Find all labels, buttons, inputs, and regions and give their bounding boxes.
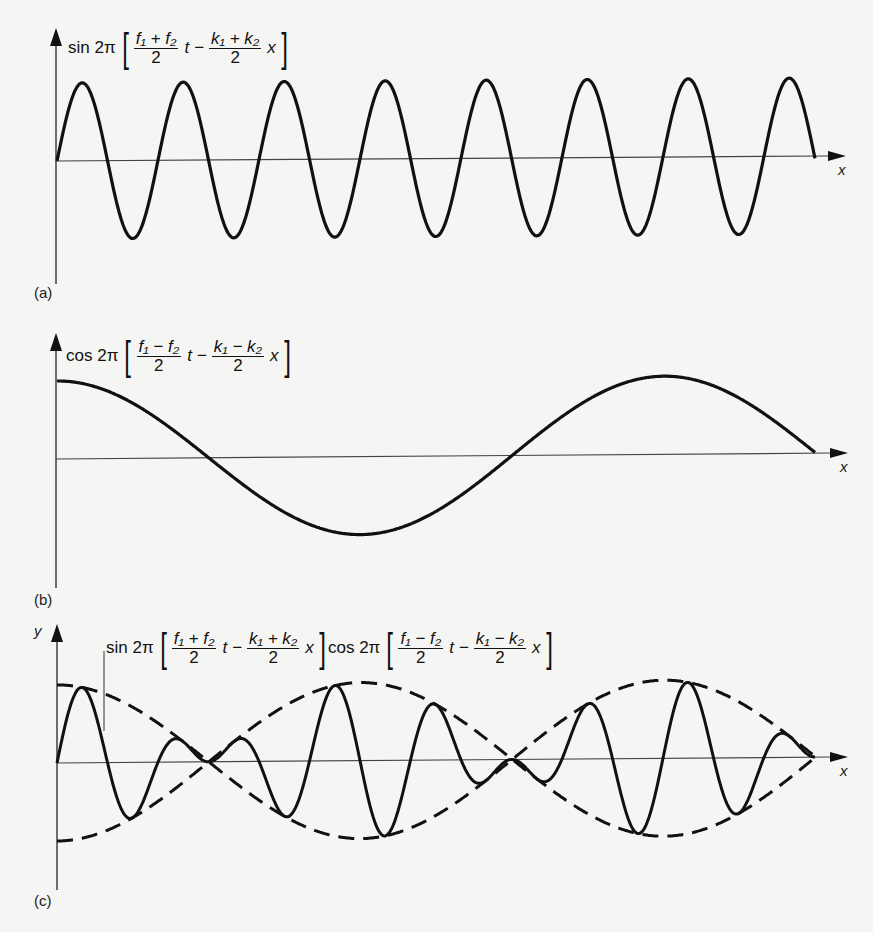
formula-open-bracket: [ <box>125 336 132 376</box>
panel-b-label: (b) <box>34 591 52 608</box>
panel-a-formula: sin 2π [ f₁ + f₂ 2 t − k₁ + k₂ 2 x ] <box>68 28 290 68</box>
panel-c-modulated-wave <box>57 682 815 836</box>
panel-c-label: (c) <box>34 892 52 909</box>
formula-close-bracket: ] <box>284 336 291 376</box>
diagram-canvas <box>0 0 873 932</box>
panel-a-y-arrow-icon <box>50 28 62 46</box>
panel-c-formula: sin 2π [ f₁ + f₂ 2 t − k₁ + k₂ 2 x ] cos… <box>106 628 555 668</box>
panel-b-x-axis <box>56 453 832 459</box>
panel-b-y-arrow-icon <box>50 333 62 351</box>
formula-close-bracket: ] <box>281 28 288 68</box>
panel-a-label: (a) <box>34 284 52 301</box>
panel-a-x-arrow-icon <box>828 151 846 161</box>
panel-c-y-label: y <box>34 622 42 639</box>
formula-func: cos 2π <box>66 346 118 366</box>
panel-c-x-label: x <box>840 762 848 779</box>
formula-fraction-2: k₁ − k₂ 2 <box>212 338 264 375</box>
formula-open-bracket: [ <box>122 28 129 68</box>
formula-fraction-1: f₁ − f₂ 2 <box>137 338 182 375</box>
panel-c-y-arrow-icon <box>51 624 63 642</box>
panel-b-envelope-wave <box>57 376 815 534</box>
panel-b-formula: cos 2π [ f₁ − f₂ 2 t − k₁ − k₂ 2 x ] <box>66 336 293 376</box>
panel-b-x-arrow-icon <box>830 448 848 458</box>
panel-a-x-label: x <box>838 161 846 178</box>
panel-b-x-label: x <box>840 458 848 475</box>
formula-func: sin 2π <box>68 38 116 58</box>
formula-cos-func: cos 2π <box>328 638 380 658</box>
formula-sin-func: sin 2π <box>106 638 154 658</box>
formula-fraction-2: k₁ + k₂ 2 <box>209 30 261 67</box>
panel-c-x-arrow-icon <box>830 752 848 762</box>
formula-fraction-1: f₁ + f₂ 2 <box>134 30 179 67</box>
